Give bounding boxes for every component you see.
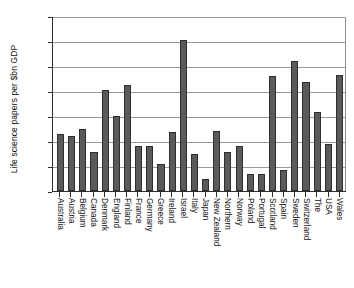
x-tick-label: Australia — [55, 198, 64, 230]
x-tick-label: USA — [324, 198, 333, 215]
bar-slot — [66, 17, 77, 191]
x-tick-mark — [249, 192, 250, 197]
bar — [236, 146, 243, 191]
bar-slot — [88, 17, 99, 191]
x-tick-slot — [132, 192, 143, 197]
x-label-slot: Australia — [54, 198, 65, 284]
x-tick-mark — [70, 192, 71, 197]
bar-slot — [100, 17, 111, 191]
x-tick-label: Scotland — [268, 198, 277, 230]
x-tick-slot — [166, 192, 177, 197]
bar — [325, 144, 332, 192]
x-tick-slot — [99, 192, 110, 197]
x-tick-label: Israel — [178, 198, 187, 218]
x-tick-mark — [137, 192, 138, 197]
bar-slot — [211, 17, 222, 191]
bar — [157, 164, 164, 192]
bar-slot — [122, 17, 133, 191]
y-tick-mark — [48, 67, 52, 68]
x-tick-label: Wales — [335, 198, 344, 220]
y-tick-mark — [48, 167, 52, 168]
x-tick-label: Canada — [89, 198, 98, 227]
bar-chart: Life science papers per $bn GDP 02040608… — [0, 0, 354, 288]
x-tick-mark — [160, 192, 161, 197]
x-tick-slot — [300, 192, 311, 197]
x-label-slot: Austria — [65, 198, 76, 284]
x-tick-label: Switzerland — [301, 198, 310, 240]
x-tick-slot — [54, 192, 65, 197]
bar-slot — [111, 17, 122, 191]
x-tick-slot — [323, 192, 334, 197]
bar-slot — [200, 17, 211, 191]
x-tick-label: Japan — [201, 198, 210, 220]
x-tick-slot — [334, 192, 345, 197]
x-tick-slot — [121, 192, 132, 197]
bar-slot — [289, 17, 300, 191]
bar-slot — [334, 17, 345, 191]
bar — [314, 112, 321, 191]
x-tick-label: Sweden — [290, 198, 299, 228]
x-tick-slot — [211, 192, 222, 197]
x-tick-mark — [126, 192, 127, 197]
bar — [247, 174, 254, 192]
bar — [57, 134, 64, 192]
x-tick-mark — [272, 192, 273, 197]
y-tick-mark — [48, 42, 52, 43]
y-tick-mark — [48, 17, 52, 18]
x-tick-label: New Zealand — [212, 198, 221, 246]
bar-slot — [267, 17, 278, 191]
bar — [336, 75, 343, 191]
x-axis-labels: AustraliaAustriaBelgiumCanadaDenmarkEngl… — [52, 198, 346, 284]
bar — [202, 179, 209, 192]
x-tick-label: Finland — [122, 198, 131, 225]
y-tick-mark — [48, 92, 52, 93]
x-label-slot: Sweden — [289, 198, 300, 284]
x-tick-label: Spain — [279, 198, 288, 219]
x-tick-slot — [177, 192, 188, 197]
bar — [135, 146, 142, 191]
x-label-slot: Northern — [222, 198, 233, 284]
x-tick-label: Italy — [189, 198, 198, 213]
x-tick-mark — [81, 192, 82, 197]
bar — [68, 136, 75, 191]
x-label-slot: Denmark — [99, 198, 110, 284]
x-tick-mark — [316, 192, 317, 197]
bar — [258, 174, 265, 192]
bar-slot — [178, 17, 189, 191]
x-tick-mark — [294, 192, 295, 197]
x-tick-mark — [227, 192, 228, 197]
x-tick-label: Poland — [245, 198, 254, 224]
x-tick-label: Portugal — [256, 198, 265, 229]
bar-slot — [300, 17, 311, 191]
x-label-slot: Wales — [334, 198, 345, 284]
x-tick-slot — [110, 192, 121, 197]
bar-slot — [77, 17, 88, 191]
x-label-slot: New Zealand — [211, 198, 222, 284]
x-tick-mark — [216, 192, 217, 197]
bar-slot — [133, 17, 144, 191]
x-tick-label: Denmark — [100, 198, 109, 231]
x-tick-label: Northern — [223, 198, 232, 230]
x-label-slot: Italy — [188, 198, 199, 284]
bar — [79, 129, 86, 192]
x-tick-slot — [188, 192, 199, 197]
bar — [90, 152, 97, 191]
bar — [302, 82, 309, 191]
bar-slot — [144, 17, 155, 191]
x-label-slot: Greece — [155, 198, 166, 284]
plot-area — [52, 17, 346, 192]
x-tick-label: Norway — [234, 198, 243, 226]
bar — [180, 40, 187, 191]
x-tick-mark — [149, 192, 150, 197]
x-tick-slot — [311, 192, 322, 197]
x-tick-slot — [233, 192, 244, 197]
x-tick-slot — [255, 192, 266, 197]
x-label-slot: Spain — [278, 198, 289, 284]
x-tick-slot — [267, 192, 278, 197]
bar-slot — [245, 17, 256, 191]
x-tick-mark — [59, 192, 60, 197]
x-label-slot: Canada — [88, 198, 99, 284]
x-axis-ticks — [52, 192, 346, 197]
bar — [191, 154, 198, 192]
x-tick-slot — [222, 192, 233, 197]
